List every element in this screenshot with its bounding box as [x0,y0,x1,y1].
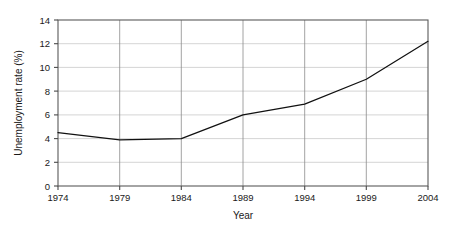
unemployment-rate-line-chart: 14 12 10 8 6 4 2 0 1974 1979 1984 1989 1… [0,0,459,229]
xtick-label-1984: 1984 [171,192,192,203]
ytick-label-6: 6 [45,109,50,120]
xtick-label-1994: 1994 [294,192,315,203]
x-axis-tick-marks [58,186,428,190]
x-axis-tick-labels: 1974 1979 1984 1989 1994 1999 2004 [47,192,438,203]
x-axis-title: Year [233,210,254,221]
ytick-label-4: 4 [45,133,50,144]
ytick-label-8: 8 [45,86,50,97]
xtick-label-1974: 1974 [47,192,68,203]
ytick-label-2: 2 [45,157,50,168]
xtick-label-1979: 1979 [109,192,130,203]
vertical-gridlines [120,20,367,186]
y-axis-tick-marks [54,20,58,186]
ytick-label-14: 14 [39,15,50,26]
y-axis-tick-labels: 14 12 10 8 6 4 2 0 [39,15,50,192]
xtick-label-1999: 1999 [356,192,377,203]
xtick-label-2004: 2004 [417,192,438,203]
y-axis-title: Unemployment rate (%) [13,50,24,156]
ytick-label-10: 10 [39,62,50,73]
ytick-label-12: 12 [39,38,50,49]
ytick-label-0: 0 [45,181,50,192]
chart-canvas: 14 12 10 8 6 4 2 0 1974 1979 1984 1989 1… [0,0,459,229]
xtick-label-1989: 1989 [232,192,253,203]
